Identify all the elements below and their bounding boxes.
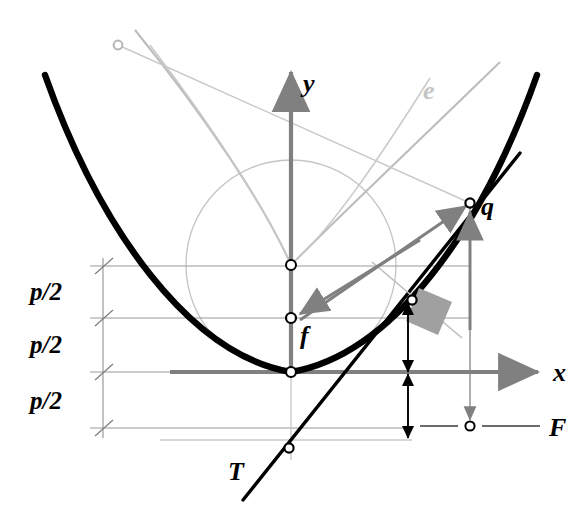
marker-directrix-foot bbox=[465, 421, 474, 430]
label-p-half-1: p/2 bbox=[28, 278, 62, 305]
label-tangent: T bbox=[228, 457, 245, 486]
marker-vertex bbox=[286, 367, 296, 377]
label-p-half-2: p/2 bbox=[28, 331, 62, 358]
diagram-canvas: p/2 p/2 p/2 y x f q T F e bbox=[0, 0, 588, 532]
marker-focus bbox=[286, 313, 296, 323]
label-evolute: e bbox=[423, 76, 435, 105]
marker-top-point bbox=[114, 41, 123, 50]
label-point-q: q bbox=[481, 192, 494, 221]
marker-q bbox=[465, 198, 474, 207]
evolute-curve-left bbox=[135, 30, 291, 265]
marker-tangent-intercept bbox=[284, 443, 293, 452]
marker-tangency bbox=[407, 295, 416, 304]
label-p-half-3: p/2 bbox=[28, 387, 62, 414]
label-y-axis: y bbox=[300, 69, 315, 98]
evolute-arc-right bbox=[291, 78, 430, 265]
evolute-arc-left bbox=[150, 45, 291, 265]
label-directrix: F bbox=[548, 413, 566, 442]
marker-circle-center bbox=[286, 260, 296, 270]
faint-chord bbox=[118, 45, 470, 203]
label-focus: f bbox=[300, 321, 311, 350]
label-x-axis: x bbox=[552, 358, 566, 387]
geometry-figure: p/2 p/2 p/2 y x f q T F e bbox=[0, 0, 588, 532]
